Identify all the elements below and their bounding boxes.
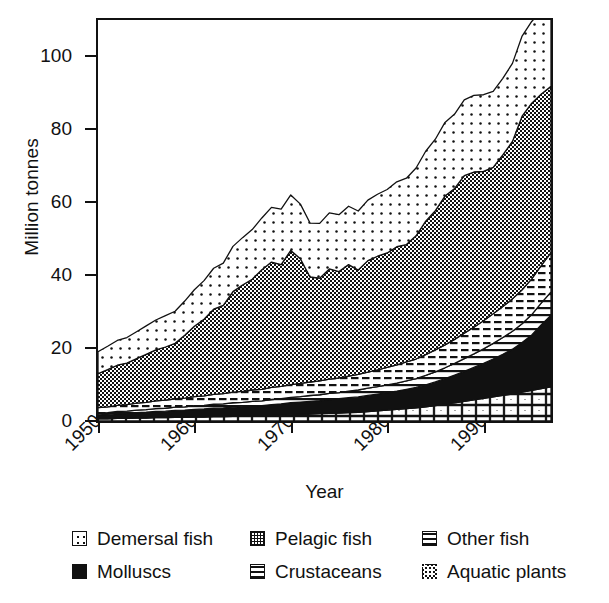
y-tick-label: 40 — [8, 264, 72, 286]
legend-label: Crustaceans — [275, 561, 382, 583]
legend-item-demersal-fish: Demersal fish — [72, 528, 250, 550]
y-tick-mark — [85, 274, 96, 276]
y-tick-label: 20 — [8, 337, 72, 359]
fine-grid-swatch-icon — [422, 564, 437, 579]
dashed-lines-swatch-icon — [422, 531, 437, 546]
legend-label: Other fish — [447, 528, 529, 550]
y-tick-mark — [85, 128, 96, 130]
stacked-area-chart — [98, 20, 551, 421]
sparse-dots-swatch-icon — [72, 531, 87, 546]
crosshatch-swatch-icon — [250, 531, 265, 546]
y-tick-label: 0 — [8, 410, 72, 432]
solid-black-swatch-icon — [72, 564, 87, 579]
legend-item-pelagic-fish: Pelagic fish — [250, 528, 422, 550]
legend-row: Molluscs Crustaceans Aquatic plants — [72, 555, 572, 588]
y-tick-mark — [85, 55, 96, 57]
legend-item-crustaceans: Crustaceans — [250, 561, 422, 583]
legend-label: Aquatic plants — [447, 561, 566, 583]
legend-row: Demersal fish Pelagic fish Other fish — [72, 522, 572, 555]
legend-item-molluscs: Molluscs — [72, 561, 250, 583]
legend-item-aquatic-plants: Aquatic plants — [422, 561, 572, 583]
legend-label: Pelagic fish — [275, 528, 372, 550]
legend-label: Demersal fish — [97, 528, 213, 550]
x-axis-label: Year — [96, 481, 553, 503]
legend-label: Molluscs — [97, 561, 171, 583]
y-tick-mark — [85, 201, 96, 203]
plot-area — [96, 18, 553, 423]
legend-item-other-fish: Other fish — [422, 528, 572, 550]
legend: Demersal fish Pelagic fish Other fish Mo… — [72, 522, 572, 588]
horizontal-lines-swatch-icon — [250, 564, 265, 579]
y-tick-label: 100 — [8, 45, 72, 67]
chart-figure: Million tonnes 020406080100 195019601970… — [0, 0, 609, 603]
y-tick-label: 80 — [8, 118, 72, 140]
y-tick-label: 60 — [8, 191, 72, 213]
y-tick-mark — [85, 347, 96, 349]
